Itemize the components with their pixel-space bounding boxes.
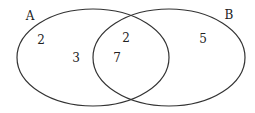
region-b-only-value: 5: [199, 33, 207, 45]
region-intersection-top-value: 2: [122, 32, 130, 44]
set-a-label: A: [26, 10, 35, 22]
region-intersection-value: 7: [113, 52, 121, 64]
region-a-only-top-value: 2: [37, 34, 45, 46]
region-a-only-value: 3: [72, 52, 80, 64]
set-b-label: B: [225, 9, 234, 21]
venn-diagram: [0, 0, 255, 113]
